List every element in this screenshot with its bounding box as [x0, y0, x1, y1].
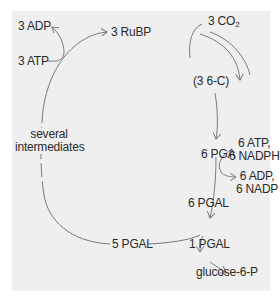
co2-subscript: 2 [235, 20, 239, 29]
arc-top [43, 32, 107, 110]
co2-arrow [190, 24, 203, 58]
label-6-nadph: 6 NADPH [229, 150, 280, 163]
label-atp-nadph: 6 ATP, 6 NADPH [229, 137, 280, 163]
label-3-adp: 3 ADP [18, 20, 51, 33]
label-1-pgal: 1 PGAL [189, 238, 230, 251]
label-3-6c: (3 6-C) [193, 75, 229, 88]
label-3-co2: 3 CO2 [208, 15, 239, 28]
label-3-rubp: 3 RuBP [111, 26, 151, 39]
label-6-pgal: 6 PGAL [188, 197, 229, 210]
label-glucose-6-p: glucose-6-P [196, 266, 258, 279]
arc-bottom [44, 195, 110, 244]
sixc-to-pga-arrow [215, 93, 217, 139]
label-5-pgal: 5 PGAL [112, 238, 153, 251]
co2-text: 3 CO [208, 14, 235, 28]
label-6-nadp: 6 NADP [236, 183, 278, 196]
label-several-intermediates: several intermediates [15, 128, 83, 154]
label-3-atp: 3 ATP [18, 55, 49, 68]
label-intermediates: intermediates [15, 141, 83, 154]
label-adp-nadp: 6 ADP, 6 NADP [236, 170, 278, 196]
